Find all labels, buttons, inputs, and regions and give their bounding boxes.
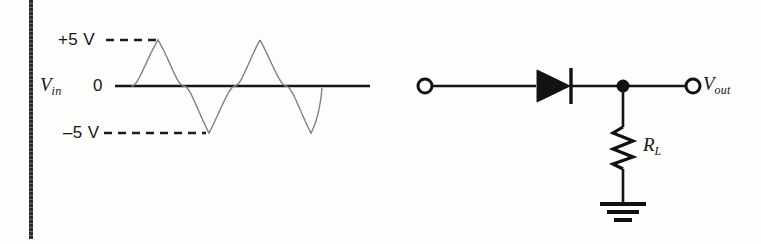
diode-icon [537,70,570,102]
figure-root: Vin 0 +5 V –5 V Vout RL [0,0,761,244]
input-voltage-label-main: V [40,74,52,95]
waveform-panel [104,40,370,133]
output-voltage-label: Vout [703,74,731,96]
positive-peak-level-label: +5 V [58,31,95,48]
ground-icon [600,204,646,220]
load-resistor-label-subscript: L [655,144,662,158]
load-resistor-label: RL [643,135,661,157]
output-voltage-label-subscript: out [715,83,731,97]
load-resistor-label-main: R [643,134,655,155]
output-voltage-label-main: V [703,73,715,94]
input-voltage-label: Vin [40,75,61,97]
input-voltage-label-subscript: in [52,84,62,98]
input-terminal-icon[interactable] [418,79,432,93]
figure-canvas [0,0,761,244]
zero-level-label: 0 [93,77,103,94]
resistor-icon [613,127,633,169]
negative-peak-level-label: –5 V [63,124,100,141]
output-terminal-icon[interactable] [686,79,700,93]
